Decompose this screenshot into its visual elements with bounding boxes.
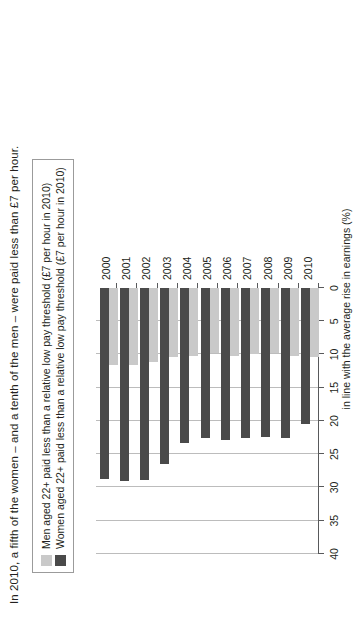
bar-women — [221, 288, 230, 440]
category-label: 2002 — [140, 257, 152, 280]
bar-women — [261, 288, 270, 437]
bar-women — [140, 288, 149, 480]
axis-tick-label: 40 — [328, 548, 340, 560]
category-label: 2009 — [282, 257, 294, 280]
bar-group — [136, 288, 156, 554]
chart-legend: Men aged 22+ paid less than a relative l… — [32, 159, 74, 573]
axis-tick-label: 15 — [328, 382, 340, 394]
category-label: 2006 — [221, 257, 233, 280]
bar-women — [301, 288, 310, 424]
bar-group — [197, 288, 217, 554]
legend-label-men: Men aged 22+ paid less than a relative l… — [40, 183, 52, 549]
bar-women — [160, 288, 169, 464]
category-label: 2004 — [181, 257, 193, 280]
bar-group — [278, 288, 298, 554]
axis-tick — [318, 387, 324, 388]
category-tick — [318, 283, 319, 288]
bar-group — [237, 288, 257, 554]
category-label: 2010 — [302, 257, 314, 280]
bar-women — [281, 288, 290, 438]
bar-men — [310, 288, 319, 357]
legend-label-women: Women aged 22+ paid less than a relative… — [54, 167, 66, 549]
bar-group — [116, 288, 136, 554]
category-label: 2001 — [120, 257, 132, 280]
axis-tick — [318, 553, 324, 554]
bar-group — [157, 288, 177, 554]
category-label: 2007 — [241, 257, 253, 280]
bar-group — [217, 288, 237, 554]
axis-tick — [318, 453, 324, 454]
axis-tick-label: 10 — [328, 349, 340, 361]
axis-tick-label: 35 — [328, 515, 340, 527]
bar-group — [298, 288, 318, 554]
bar-women — [241, 288, 250, 438]
chart-figure: In 2010, a fifth of the women – and a te… — [0, 0, 354, 618]
bar-women — [100, 288, 109, 479]
category-label: 2003 — [161, 257, 173, 280]
axis-tick-label: 20 — [328, 415, 340, 427]
category-label: 2000 — [100, 257, 112, 280]
bar-women — [201, 288, 210, 438]
axis-tick-label: 25 — [328, 448, 340, 460]
bar-group — [257, 288, 277, 554]
axis-tick — [318, 520, 324, 521]
bar-group — [177, 288, 197, 554]
legend-item-men: Men aged 22+ paid less than a relative l… — [40, 167, 52, 566]
legend-swatch-men — [41, 555, 52, 566]
bar-women — [180, 288, 189, 443]
plot-area: 0510152025303540200020012002200320042005… — [96, 288, 319, 554]
axis-tick — [318, 487, 324, 488]
category-label: 2005 — [201, 257, 213, 280]
legend-item-women: Women aged 22+ paid less than a relative… — [54, 167, 66, 566]
bar-group — [96, 288, 116, 554]
chart-title: In 2010, a fifth of the women – and a te… — [8, 4, 20, 604]
legend-swatch-women — [55, 555, 66, 566]
bar-women — [120, 288, 129, 481]
axis-tick-label: 0 — [328, 285, 340, 291]
axis-tick-label: 5 — [328, 318, 340, 324]
axis-tick-label: 30 — [328, 482, 340, 494]
axis-tick — [318, 420, 324, 421]
category-label: 2008 — [262, 257, 274, 280]
value-axis-label: in line with the average rise in earning… — [340, 0, 352, 618]
